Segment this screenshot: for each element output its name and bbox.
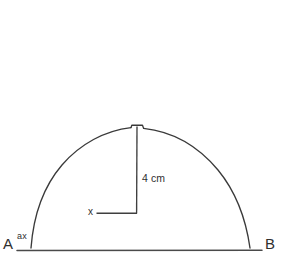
point-label-a: A — [3, 236, 13, 251]
height-measure-label: 4 cm — [142, 173, 165, 184]
figure-canvas — [0, 0, 282, 258]
dome-arc-right-icon — [144, 128, 250, 248]
radius-measure-label: x — [88, 207, 93, 217]
geometry-figure: A ax 4 cm x B — [0, 0, 282, 258]
angle-marker-label: ax — [17, 232, 27, 241]
point-label-b: B — [265, 236, 275, 251]
dome-arc-left-icon — [31, 128, 131, 248]
